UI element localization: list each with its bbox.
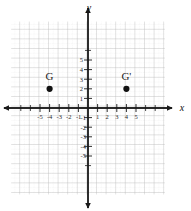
x-tick-label: 1 [96,113,99,120]
y-tick-label: 2 [80,85,83,92]
y-axis-label: y [86,2,92,13]
y-tick-label: 3 [80,76,83,83]
y-tick-label: -1 [81,114,86,121]
x-axis-label: x [179,102,185,113]
y-tick-label: 1 [80,95,83,102]
coordinate-plane-figure: -5 -4 -3 -2 -1 1 2 3 4 5 5 4 3 2 1 -1 -2… [0,0,191,211]
x-tick-label: 5 [134,113,137,120]
x-tick-label: -2 [66,113,71,120]
y-tick-label: -3 [81,133,86,140]
point-g-label: G [46,70,54,82]
x-tick-label: -4 [47,113,53,120]
y-tick-label: 5 [80,56,83,63]
x-tick-label: -5 [37,113,42,120]
point-g-prime-label: G' [121,70,131,82]
point-g[interactable] [47,86,53,92]
coordinate-plane-svg: -5 -4 -3 -2 -1 1 2 3 4 5 5 4 3 2 1 -1 -2… [0,0,191,211]
y-tick-label: -2 [81,124,86,131]
y-tick-label: -4 [81,143,87,150]
point-g-prime[interactable] [123,86,129,92]
y-tick-label: -5 [81,152,86,159]
x-tick-label: 3 [115,113,118,120]
x-tick-label: 2 [106,113,109,120]
x-tick-label: -3 [56,113,61,120]
